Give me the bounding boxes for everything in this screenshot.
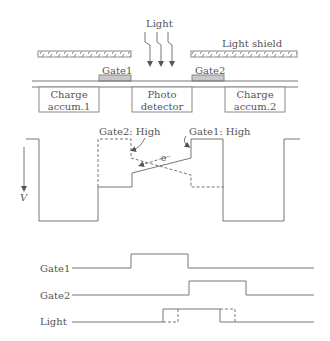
timing-light-delay-2 — [220, 309, 235, 322]
potential-profile-gate1-high — [26, 139, 300, 221]
gate1-label: Gate1 — [102, 65, 132, 76]
light-shield-right — [191, 51, 297, 57]
light-shield-label: Light shield — [222, 38, 283, 49]
charge-accum-2-label2: accum.2 — [234, 101, 277, 112]
timing-light-wave — [72, 309, 314, 322]
charge-accum-1-label2: accum.1 — [48, 101, 91, 112]
photo-detector-label2: detector — [141, 101, 184, 112]
timing-light-delay-1 — [163, 309, 178, 322]
gate2-label: Gate2 — [195, 65, 225, 76]
timing-gate1-wave — [72, 254, 314, 268]
light-arrows-icon — [145, 32, 172, 64]
timing-gate1-label: Gate1 — [40, 263, 70, 274]
photo-detector-label1: Photo — [147, 89, 176, 100]
timing-light-label: Light — [40, 316, 67, 327]
light-shield-left — [38, 51, 131, 57]
timing-gate2-wave — [72, 281, 314, 295]
charge-accum-1-label1: Charge — [50, 89, 87, 100]
light-label: Light — [146, 18, 173, 29]
gate1-high-label: Gate1: High — [189, 126, 251, 137]
gate2-pointer-arrow — [133, 138, 145, 150]
voltage-axis-label: V — [20, 192, 29, 203]
potential-profile-gate2-high — [98, 139, 224, 187]
gate1-pointer-arrow — [184, 136, 188, 146]
tof-pixel-diagram: Light Light shield Gate1 Gate2 Charge ac… — [0, 0, 330, 341]
gate2 — [192, 75, 224, 81]
gate1 — [99, 75, 131, 81]
timing-gate2-label: Gate2 — [40, 290, 70, 301]
electron-label: e⁻ — [161, 153, 171, 163]
charge-accum-2-label1: Charge — [236, 89, 273, 100]
gate2-high-label: Gate2: High — [99, 126, 161, 137]
